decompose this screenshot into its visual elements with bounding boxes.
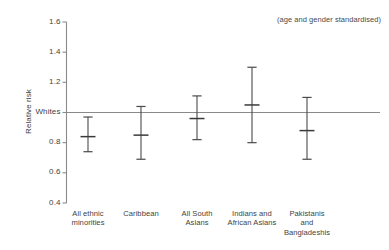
errorbar-group (81, 117, 96, 152)
y-axis-tick-label: 1.2 (49, 77, 60, 86)
y-axis-tick-label: 0.6 (49, 167, 60, 176)
x-axis-category-label: Indians and African Asians (221, 209, 283, 228)
y-axis-tick-label: 1.6 (49, 17, 60, 26)
errorbar-group (245, 67, 260, 142)
y-axis-tick-label: 0.4 (49, 198, 60, 207)
x-axis-category-label: Pakistanis and Bangladeshis (276, 209, 338, 237)
errorbar-group (190, 96, 205, 140)
relative-risk-errorbar-chart: Relative risk (age and gender standardis… (0, 0, 389, 250)
y-axis-reference-label: Whites (35, 107, 60, 116)
x-axis-category-label: Caribbean (110, 209, 172, 218)
y-axis-title: Relative risk (24, 83, 33, 139)
x-axis-category-label: All South Asians (166, 209, 228, 228)
y-axis-tick-label: 1.4 (49, 47, 60, 56)
errorbar-group (300, 97, 315, 159)
errorbar-group (134, 106, 149, 159)
y-axis-tick-label: 0.8 (49, 137, 60, 146)
chart-annotation: (age and gender standardised) (277, 15, 381, 24)
